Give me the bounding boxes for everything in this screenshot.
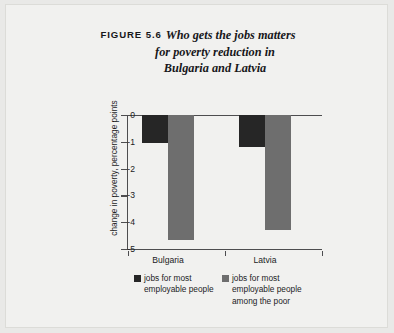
chart-plot-area: change in poverty, percentage points 0-1… [110,109,322,257]
legend-swatch-icon [222,275,229,282]
figure-frame: FIGURE 5.6Who gets the jobs matters for … [5,4,388,328]
legend-label: jobs for most employable people among th… [232,273,304,307]
x-tick-mark [322,251,323,256]
bar-bulgaria-series-1 [142,115,168,143]
figure-label: FIGURE 5.6 [100,29,161,40]
caption-title-line-1: Who gets the jobs matters [166,28,296,42]
bar-latvia-series-1 [239,115,265,147]
bar-groups: BulgariaLatvia [128,115,322,249]
x-tick-mark [128,251,129,256]
legend-swatch-icon [134,275,141,282]
bar-latvia-series-2 [265,115,291,230]
legend-item-2: jobs for most employable people among th… [222,273,304,307]
caption-line-1: FIGURE 5.6Who gets the jobs matters [24,27,372,44]
x-tick-label-latvia: Latvia [220,255,310,265]
x-tick-mark [225,251,226,256]
legend-label: jobs for most employable people [144,273,216,296]
bar-group [225,115,322,249]
legend-item-1: jobs for most employable people [134,273,216,296]
bar-bulgaria-series-2 [168,115,194,240]
figure-caption: FIGURE 5.6Who gets the jobs matters for … [24,27,372,77]
bar-group [128,115,225,249]
caption-title-line-3: Bulgaria and Latvia [24,60,372,77]
x-tick-label-bulgaria: Bulgaria [123,255,213,265]
caption-title-line-2: for poverty reduction in [24,44,372,61]
